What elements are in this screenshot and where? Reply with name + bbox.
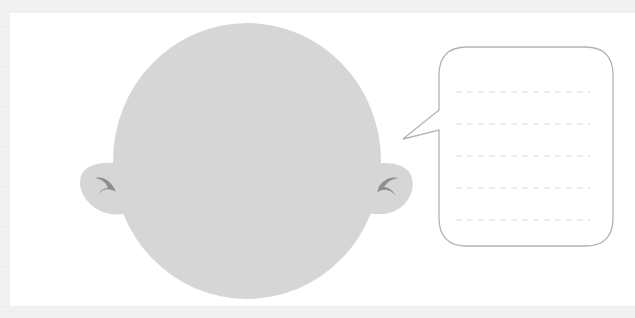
head-illustration (0, 0, 635, 318)
head-circle (113, 23, 381, 299)
speech-bubble (403, 47, 613, 246)
